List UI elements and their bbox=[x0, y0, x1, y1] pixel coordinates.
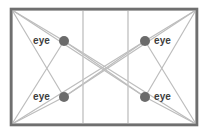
sight-ray-group bbox=[12, 10, 196, 124]
eye-label-top-left: eye bbox=[33, 36, 50, 46]
eye-point-bottom-left bbox=[59, 92, 69, 102]
eye-label-bottom-left: eye bbox=[33, 92, 50, 102]
diagram-canvas bbox=[0, 0, 210, 134]
eye-label-top-right: eye bbox=[154, 36, 171, 46]
eye-point-bottom-right bbox=[140, 92, 150, 102]
eye-point-top-right bbox=[140, 36, 150, 46]
eye-point-top-left bbox=[59, 36, 69, 46]
eye-label-bottom-right: eye bbox=[154, 92, 171, 102]
eye-sightline-diagram: eye eye eye eye bbox=[0, 0, 210, 134]
